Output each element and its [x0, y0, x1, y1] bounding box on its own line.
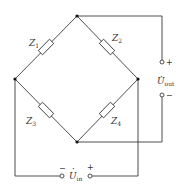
label-z2: Z2	[111, 33, 122, 44]
wire-input-plus	[92, 79, 138, 176]
output-voltage-label: Uout	[157, 76, 175, 87]
node-top	[75, 14, 78, 17]
input-minus-sign: −	[59, 164, 66, 173]
impedance-z1	[38, 39, 53, 55]
label-z1: Z1	[28, 38, 39, 49]
input-plus-sign: +	[87, 163, 94, 172]
node-left	[13, 77, 16, 80]
input-voltage-label: Uin	[69, 171, 83, 182]
label-z3: Z3	[25, 116, 36, 127]
node-right	[136, 77, 139, 80]
node-bottom	[75, 140, 78, 143]
terminal-input-plus	[88, 174, 92, 178]
bridge-circuit-diagram: Z1 Z2 Z3 Z4 + − · Uout − + · Uin	[0, 0, 184, 191]
terminal-output-minus	[160, 93, 164, 97]
terminal-output-plus	[160, 60, 164, 64]
label-z4: Z4	[110, 116, 121, 127]
terminal-input-minus	[60, 174, 64, 178]
impedance-z3	[38, 102, 53, 118]
output-minus-sign: −	[166, 91, 173, 100]
wire-input-minus	[15, 79, 60, 176]
output-plus-sign: +	[166, 58, 173, 67]
